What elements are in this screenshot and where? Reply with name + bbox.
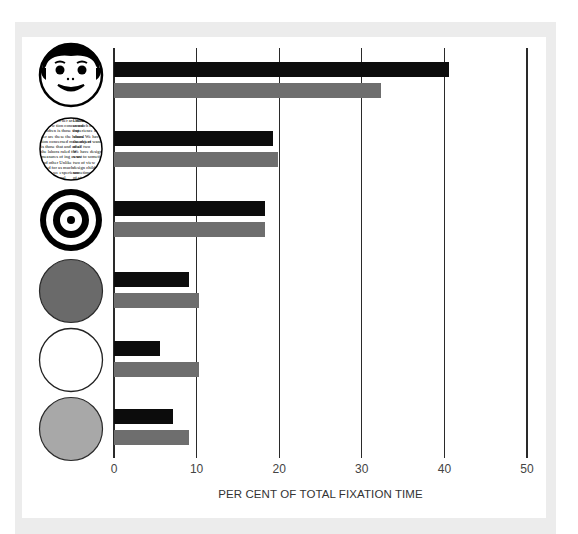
bar-black [114,272,189,287]
x-tick-label: 30 [347,462,377,476]
bar-black [114,62,449,77]
x-tick-label: 20 [264,462,294,476]
bar-black [114,341,160,356]
dark-disk-icon [38,258,104,324]
bar-grey [114,152,278,167]
gridline [279,48,280,458]
x-tick-label: 0 [99,462,129,476]
bar-grey [114,293,199,308]
bar-black [114,131,273,146]
gridline [196,48,197,458]
newsprint-icon: sometimes ber are theseUnlike visualof v… [38,116,104,182]
bar-grey [114,430,189,445]
gridline [361,48,362,458]
x-tick-label: 50 [512,462,542,476]
white-disk-icon [38,327,104,393]
x-tick-label: 10 [182,462,212,476]
face-icon [38,42,104,108]
bar-grey [114,362,199,377]
bar-grey [114,222,265,237]
bullseye-icon [38,187,104,253]
bar-black [114,201,265,216]
gridline [444,48,445,458]
x-axis-label: PER CENT OF TOTAL FIXATION TIME [114,488,527,500]
gridline [526,48,527,458]
bar-black [114,409,173,424]
light-disk-icon [38,396,104,462]
bar-grey [114,83,381,98]
gridline [113,48,114,458]
x-tick-label: 40 [429,462,459,476]
